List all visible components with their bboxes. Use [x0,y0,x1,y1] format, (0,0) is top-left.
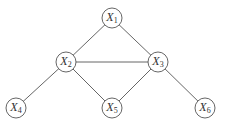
edges-layer [16,18,205,108]
nodes-layer: X1 X2 X3 X4 X5 X6 [6,8,215,118]
node-x2: X2 [56,52,76,72]
node-x3: X3 [148,52,168,72]
node-x1: X1 [102,8,122,28]
node-x6: X6 [195,98,215,118]
node-x5: X5 [102,98,122,118]
graph-diagram: X1 X2 X3 X4 X5 X6 [0,0,228,125]
node-x4: X4 [6,98,26,118]
